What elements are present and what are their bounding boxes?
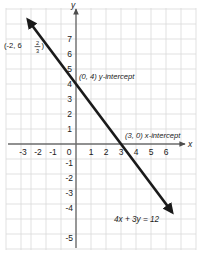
- x-tick-6: 6: [164, 147, 169, 157]
- annotation-x-intercept: (3, 0) x-intercept: [125, 131, 181, 140]
- y-tick-4: 4: [67, 79, 72, 89]
- x-tick--1: -1: [49, 147, 57, 157]
- y-axis-label: y: [70, 0, 76, 10]
- x-tick--2: -2: [34, 147, 42, 157]
- x-tick-2: 2: [104, 147, 109, 157]
- y-tick--1: -1: [65, 158, 73, 168]
- x-tick-0: 0: [67, 147, 72, 157]
- y-tick--5: -5: [65, 233, 73, 243]
- y-tick-2: 2: [67, 109, 72, 119]
- y-tick-5: 5: [67, 64, 72, 74]
- annotation-upper-point-numerator: 2: [36, 40, 39, 46]
- y-tick-3: 3: [67, 94, 72, 104]
- annotation-y-intercept: (0, 4) y-intercept: [79, 72, 135, 81]
- y-tick-6: 6: [67, 49, 72, 59]
- x-tick-5: 5: [149, 147, 154, 157]
- y-tick--2: -2: [65, 173, 73, 183]
- x-tick-4: 4: [134, 147, 139, 157]
- coordinate-graph-figure: -3 -2 -1 0 1 2 3 4 5 6 7 6 5 4 3 2 1 -1 …: [0, 0, 200, 253]
- x-tick--3: -3: [19, 147, 27, 157]
- x-tick-1: 1: [89, 147, 94, 157]
- graph-svg: -3 -2 -1 0 1 2 3 4 5 6 7 6 5 4 3 2 1 -1 …: [0, 0, 200, 253]
- annotation-upper-point-denominator: 3: [36, 48, 39, 54]
- y-tick--4: -4: [65, 203, 73, 213]
- y-tick--3: -3: [65, 188, 73, 198]
- x-tick-3: 3: [119, 147, 124, 157]
- figure-background: [0, 0, 200, 253]
- x-axis-label: x: [187, 139, 193, 149]
- y-tick-1: 1: [67, 124, 72, 134]
- y-tick-7: 7: [67, 34, 72, 44]
- annotation-upper-point-text: (-2, 6: [4, 41, 22, 50]
- equation-label: 4x + 3y = 12: [114, 215, 160, 224]
